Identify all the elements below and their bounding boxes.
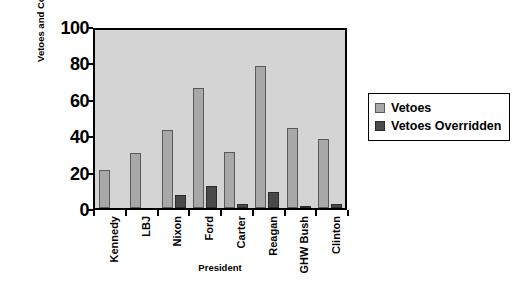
legend-item[interactable]: Vetoes (375, 99, 501, 117)
x-axis-category-label: Reagan (267, 216, 279, 256)
bar-vetoes-overridden[interactable] (175, 195, 186, 208)
x-axis-category-label: Clinton (330, 216, 342, 254)
legend-item-label: Vetoes (391, 101, 431, 115)
bars-layer (95, 30, 345, 208)
bar-vetoes[interactable] (224, 152, 235, 208)
plot-area (93, 28, 347, 210)
bar-group (314, 30, 345, 208)
bar-group (95, 30, 126, 208)
x-axis-tick-mark (347, 210, 349, 216)
bar-group (220, 30, 251, 208)
bar-vetoes-overridden[interactable] (237, 204, 248, 208)
x-axis-category-label: Kennedy (108, 216, 120, 262)
y-axis-tick-label: 0 (37, 201, 89, 219)
x-axis-category-label: LBJ (140, 216, 152, 237)
bar-chart-figure: Vetoes and Congressional Overrides 02040… (0, 0, 530, 292)
y-axis-tick-labels: 020406080100 (34, 0, 89, 292)
x-axis-category-label: Nixon (171, 216, 183, 247)
legend-item[interactable]: Vetoes Overridden (375, 117, 501, 135)
bar-vetoes[interactable] (130, 153, 141, 208)
bar-vetoes[interactable] (193, 88, 204, 208)
legend-swatch-icon (375, 103, 385, 113)
y-axis-tick-label: 40 (37, 128, 89, 146)
y-axis-tick-label: 80 (37, 55, 89, 73)
bar-vetoes-overridden[interactable] (331, 204, 342, 208)
x-axis-title: President (93, 262, 347, 273)
bar-vetoes[interactable] (255, 66, 266, 208)
bar-group (283, 30, 314, 208)
bar-vetoes[interactable] (162, 130, 173, 208)
bar-group (251, 30, 282, 208)
x-axis-category-label: Ford (203, 216, 215, 240)
bar-vetoes-overridden[interactable] (206, 186, 217, 208)
y-axis-title-container: Vetoes and Congressional Overrides (12, 28, 28, 210)
bar-vetoes[interactable] (287, 128, 298, 208)
legend-swatch-icon (375, 121, 385, 131)
legend-item-label: Vetoes Overridden (391, 119, 501, 133)
bar-vetoes[interactable] (318, 139, 329, 208)
x-axis-category-label: Carter (235, 216, 247, 248)
bar-vetoes[interactable] (99, 170, 110, 208)
y-axis-tick-label: 20 (37, 165, 89, 183)
y-axis-tick-label: 60 (37, 92, 89, 110)
bar-group (189, 30, 220, 208)
bar-group (126, 30, 157, 208)
y-axis-tick-label: 100 (37, 19, 89, 37)
bar-vetoes-overridden[interactable] (300, 206, 311, 208)
bar-group (158, 30, 189, 208)
chart-legend: VetoesVetoes Overridden (368, 93, 510, 141)
bar-vetoes-overridden[interactable] (268, 192, 279, 208)
